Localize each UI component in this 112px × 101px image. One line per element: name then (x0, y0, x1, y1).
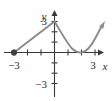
closed-endpoint-dot (11, 49, 17, 55)
graph-figure: y x 3 −3 −3 3 (0, 0, 112, 101)
x-tick-label-neg3: −3 (8, 59, 20, 71)
y-tick-label-neg3: −3 (35, 78, 47, 90)
x-tick-label-3: 3 (90, 59, 96, 71)
y-tick-label-3: 3 (42, 15, 48, 27)
coordinate-plane-svg: y x 3 −3 −3 3 (0, 0, 112, 101)
x-axis-label: x (102, 60, 108, 72)
function-curve (14, 21, 105, 53)
